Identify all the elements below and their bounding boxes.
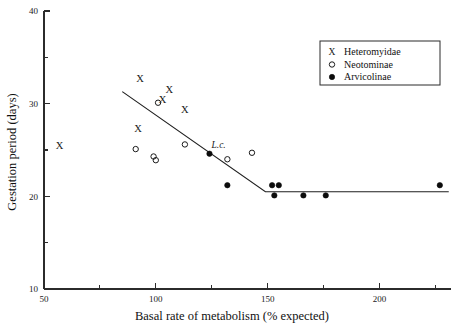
data-point: X <box>181 104 189 115</box>
x-tick-label: 200 <box>373 294 387 304</box>
legend-item-label: Arvicolinae <box>344 71 392 82</box>
plot-canvas: 10203040 50100150200 XXXXXX L.c. XHetero… <box>0 0 460 325</box>
x-tick-label: 50 <box>40 294 50 304</box>
data-point <box>437 183 442 188</box>
y-axis-group: 10203040 <box>29 6 50 294</box>
regression-fit-line <box>122 92 448 192</box>
x-axis-group: 50100150200 <box>40 283 452 304</box>
scatter-plot-figure: 10203040 50100150200 XXXXXX L.c. XHetero… <box>0 0 460 325</box>
y-tick-label: 30 <box>29 99 39 109</box>
y-tick-group: 10203040 <box>29 6 50 294</box>
y-tick-label: 40 <box>29 6 39 16</box>
data-point: X <box>159 94 167 105</box>
legend-item-label: Heteromyidae <box>344 46 401 57</box>
y-axis-title: Gestation period (days) <box>5 93 19 210</box>
data-points-layer: XXXXXX <box>56 73 443 198</box>
data-point <box>207 151 212 156</box>
series-heteromyidae: XXXXXX <box>56 73 189 151</box>
y-tick-label: 10 <box>29 284 39 294</box>
annotation-layer: L.c. <box>210 140 225 150</box>
data-point <box>269 183 274 188</box>
legend-filled-circle-icon <box>329 74 334 79</box>
data-point: X <box>134 123 142 134</box>
series-arvicolinae <box>207 151 443 198</box>
data-point <box>225 183 230 188</box>
data-point <box>323 193 328 198</box>
data-point <box>182 142 187 147</box>
x-tick-label: 150 <box>261 294 275 304</box>
y-tick-label: 20 <box>29 192 39 202</box>
series-neotominae <box>133 100 255 163</box>
data-point <box>249 150 254 155</box>
x-axis-title: Basal rate of metabolism (% expected) <box>135 309 329 323</box>
x-tick-group: 50100150200 <box>40 283 436 304</box>
data-point: X <box>56 140 64 151</box>
point-annotation-label: L.c. <box>210 140 225 150</box>
data-point <box>272 193 277 198</box>
data-point: X <box>165 84 173 95</box>
legend: XHeteromyidaeNeotominaeArvicolinae <box>320 41 440 85</box>
data-point <box>301 193 306 198</box>
data-point <box>225 157 230 162</box>
x-tick-label: 100 <box>149 294 163 304</box>
data-point <box>133 146 138 151</box>
data-point: X <box>136 73 144 84</box>
legend-item-label: Neotominae <box>344 59 393 70</box>
data-point <box>276 183 281 188</box>
legend-x-marker-icon: X <box>329 47 336 57</box>
